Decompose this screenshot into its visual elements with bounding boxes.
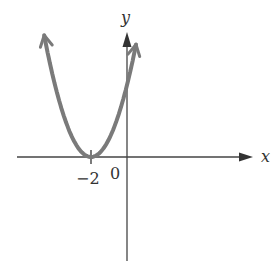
parabola-curve bbox=[44, 35, 136, 157]
y-axis-label: y bbox=[121, 10, 130, 26]
chart-canvas bbox=[0, 0, 276, 261]
origin-label: 0 bbox=[110, 166, 120, 182]
x-axis-label: x bbox=[261, 149, 270, 165]
x-tick-label-minus-2: −2 bbox=[76, 171, 100, 187]
y-axis-arrow-icon bbox=[123, 32, 132, 47]
x-axis-arrow-icon bbox=[239, 153, 253, 162]
